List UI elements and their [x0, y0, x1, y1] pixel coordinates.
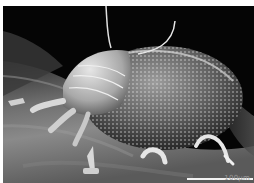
mite-illustration [3, 6, 254, 183]
scale-bar-label: 100μm [224, 174, 250, 182]
figure-frame: 100μm [0, 0, 254, 183]
sem-micrograph: 100μm [3, 6, 254, 183]
